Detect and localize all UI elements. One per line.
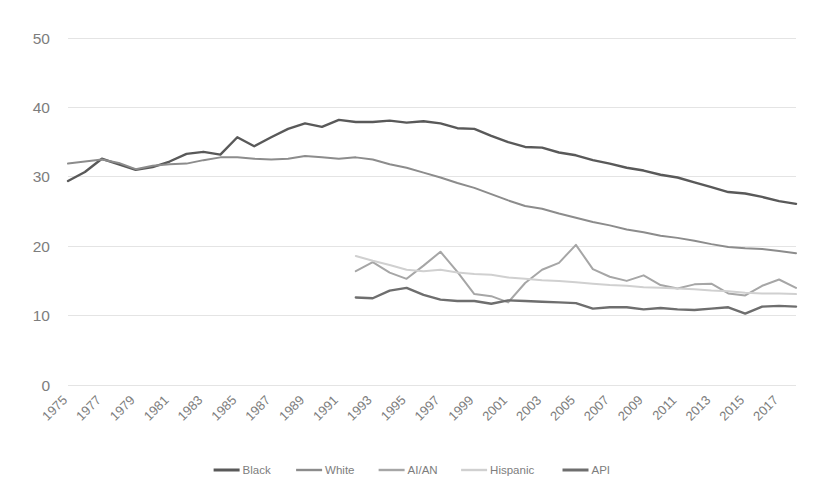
- chart-canvas: 01020304050 1975197719791981198319851987…: [0, 0, 824, 503]
- chart-background: [0, 0, 824, 503]
- legend-label: AI/AN: [408, 464, 438, 476]
- y-tick-label: 0: [41, 377, 50, 394]
- legend-label: Black: [243, 464, 271, 476]
- y-tick-label: 30: [33, 168, 51, 185]
- line-chart: 01020304050 1975197719791981198319851987…: [0, 0, 824, 503]
- legend-label: API: [592, 464, 611, 476]
- y-tick-label: 20: [33, 238, 51, 255]
- y-tick-label: 10: [33, 307, 51, 324]
- legend-label: White: [325, 464, 354, 476]
- y-tick-label: 40: [33, 99, 51, 116]
- y-tick-label: 50: [33, 30, 51, 47]
- legend-label: Hispanic: [490, 464, 534, 476]
